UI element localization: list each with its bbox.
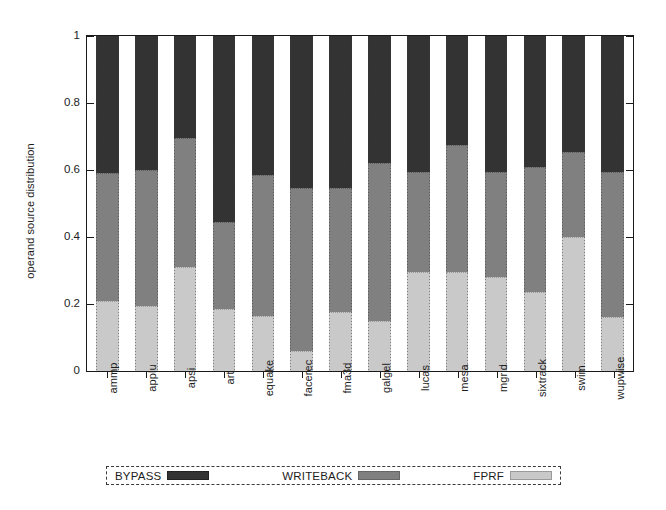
bar-segment-bypass [213, 36, 236, 222]
bar-segment-writeback [96, 173, 119, 300]
legend-label: WRITEBACK [282, 470, 352, 482]
x-tick-label: applu [146, 364, 158, 391]
bar-slot [282, 36, 321, 371]
y-tick: 0.6 [87, 170, 94, 171]
x-tick-label: mgrid [497, 364, 509, 392]
bar-slot [554, 36, 593, 371]
x-tick-label: swim [575, 365, 587, 390]
bar-segment-bypass [329, 36, 352, 188]
x-label-slot: mgrid [477, 372, 516, 450]
bar-slot [127, 36, 166, 371]
bar-segment-bypass [174, 36, 197, 138]
bar-slot [399, 36, 438, 371]
legend-entry-bypass[interactable]: BYPASS [115, 470, 209, 482]
y-tick-label: 0.2 [64, 297, 80, 309]
x-tick-label: apsi [185, 368, 197, 389]
y-tick-label: 0 [74, 364, 80, 376]
bar-segment-bypass [562, 36, 585, 152]
x-tick-label: lucas [419, 365, 431, 391]
y-tick-right [626, 237, 633, 238]
legend-swatch [510, 471, 552, 480]
x-label-slot: sixtrack [516, 372, 555, 450]
y-tick: 1 [87, 36, 94, 37]
x-tick-label: galgel [380, 363, 392, 393]
bar-segment-writeback [329, 188, 352, 312]
x-label-slot: swim [555, 372, 594, 450]
y-axis-label: operand source distribution [24, 111, 36, 311]
bar-slot [477, 36, 516, 371]
bar-segment-writeback [290, 188, 313, 350]
bar-segment-fprf [485, 277, 508, 371]
bar-segment-bypass [446, 36, 469, 145]
x-tick-label: wupwise [614, 357, 626, 400]
x-label-slot: wupwise [594, 372, 633, 450]
x-axis-labels: ammpappluapsiartequakefacerecfma3dgalgel… [86, 372, 634, 450]
bar-slot [593, 36, 632, 371]
stacked-bar[interactable] [135, 36, 158, 371]
y-tick-right [626, 103, 633, 104]
y-tick: 0.8 [87, 103, 94, 104]
bar-segment-writeback [407, 172, 430, 273]
bar-segment-bypass [252, 36, 275, 175]
bar-segment-writeback [213, 222, 236, 309]
bar-segment-bypass [135, 36, 158, 170]
x-label-slot: galgel [360, 372, 399, 450]
stacked-bar[interactable] [562, 36, 585, 371]
bar-segment-writeback [562, 152, 585, 237]
bar-segment-bypass [368, 36, 391, 163]
y-tick: 0.2 [87, 304, 94, 305]
x-label-slot: mesa [438, 372, 477, 450]
stacked-bar[interactable] [96, 36, 119, 371]
bar-segment-writeback [485, 172, 508, 278]
bar-slot [438, 36, 477, 371]
bar-slot [88, 36, 127, 371]
x-label-slot: fma3d [321, 372, 360, 450]
x-tick-label: sixtrack [536, 359, 548, 397]
bar-segment-bypass [290, 36, 313, 188]
bar-segment-bypass [485, 36, 508, 172]
legend-entry-fprf[interactable]: FPRF [473, 470, 552, 482]
x-tick-label: facerec [302, 360, 314, 397]
bar-segment-fprf [213, 309, 236, 371]
y-tick-label: 0.4 [64, 230, 80, 242]
stacked-bar[interactable] [329, 36, 352, 371]
bar-segment-fprf [562, 237, 585, 371]
x-tick-label: fma3d [341, 362, 353, 393]
x-label-slot: apsi [165, 372, 204, 450]
bar-slot [166, 36, 205, 371]
stacked-bar[interactable] [524, 36, 547, 371]
bar-segment-fprf [446, 272, 469, 371]
x-tick-label: mesa [458, 364, 470, 391]
bar-segment-bypass [524, 36, 547, 167]
stacked-bar[interactable] [485, 36, 508, 371]
stacked-bar[interactable] [368, 36, 391, 371]
bar-segment-writeback [174, 138, 197, 267]
stacked-bar[interactable] [252, 36, 275, 371]
bar-segment-fprf [174, 267, 197, 371]
bar-slot [360, 36, 399, 371]
legend-swatch [167, 471, 209, 480]
bar-slot [205, 36, 244, 371]
chart-legend: BYPASSWRITEBACKFPRF [106, 466, 561, 485]
bar-segment-writeback [135, 170, 158, 306]
bar-segment-fprf [407, 272, 430, 371]
stacked-bar[interactable] [446, 36, 469, 371]
stacked-bar[interactable] [407, 36, 430, 371]
y-tick: 0.4 [87, 237, 94, 238]
stacked-bar[interactable] [601, 36, 624, 371]
legend-swatch [358, 471, 400, 480]
stacked-bar[interactable] [174, 36, 197, 371]
bar-slot [321, 36, 360, 371]
stacked-bar[interactable] [213, 36, 236, 371]
y-tick-label: 1 [74, 29, 80, 41]
x-label-slot: ammp [87, 372, 126, 450]
y-tick-right [626, 36, 633, 37]
bar-segment-bypass [601, 36, 624, 172]
x-label-slot: applu [126, 372, 165, 450]
stacked-bar[interactable] [290, 36, 313, 371]
y-tick-right [626, 170, 633, 171]
x-label-slot: lucas [399, 372, 438, 450]
x-tick-label: equake [263, 360, 275, 397]
legend-entry-writeback[interactable]: WRITEBACK [282, 470, 400, 482]
plot-area: 00.20.40.60.81 [86, 35, 634, 372]
